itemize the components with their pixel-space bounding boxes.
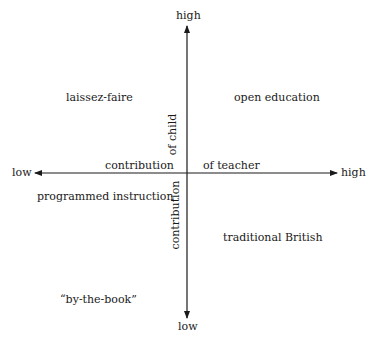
x-axis-title-right: of teacher xyxy=(203,160,260,171)
x-axis-low-label: low xyxy=(12,167,32,178)
x-axis-title-left: contribution xyxy=(105,160,174,171)
quadrant-programmed-instruction: programmed instruction xyxy=(37,191,174,202)
axes xyxy=(0,0,376,339)
quadrant-traditional-british: traditional British xyxy=(223,232,323,243)
quadrant-by-the-book: “by-the-book” xyxy=(60,294,137,305)
x-axis-high-label: high xyxy=(341,167,366,178)
y-axis-low-label: low xyxy=(178,321,198,332)
y-axis-title-upper: of child xyxy=(167,112,178,157)
quadrant-open-education: open education xyxy=(234,92,320,103)
quadrant-laissez-faire: laissez-faire xyxy=(66,92,133,103)
y-axis-high-label: high xyxy=(176,10,201,21)
